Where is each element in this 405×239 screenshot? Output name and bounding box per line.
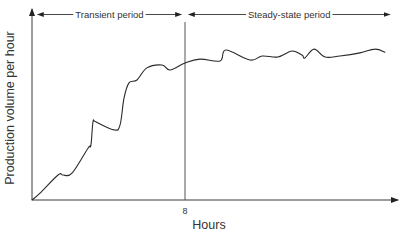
annotation-label: Steady-state period [248,9,330,20]
annotation-label: Transient period [75,9,143,20]
x-tick-label-8: 8 [182,206,187,216]
annotation-transient: Transient period [38,9,181,20]
x-axis-label: Hours [192,218,225,232]
production-curve [32,49,385,200]
period-annotations: Transient periodSteady-state period [38,9,390,20]
annotation-steady-state: Steady-state period [189,9,390,20]
y-axis-label: Production volume per hour [3,31,17,185]
chart: Transient periodSteady-state period 8 Ho… [0,0,405,239]
